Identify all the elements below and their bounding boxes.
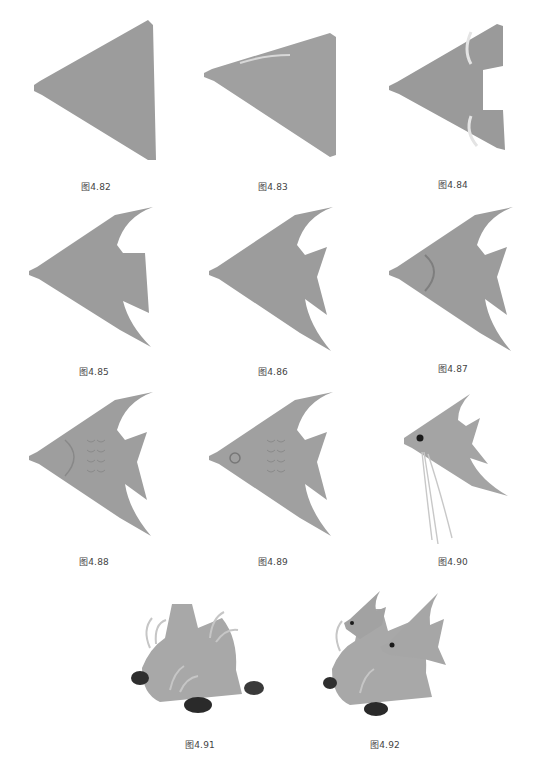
dorsal-groove-image bbox=[200, 25, 350, 165]
fins-outlined-image bbox=[25, 205, 165, 350]
figure-caption: 图4.92 bbox=[345, 738, 425, 751]
scales-carved-image bbox=[25, 390, 165, 540]
triangle-blank-image bbox=[28, 15, 168, 165]
figure-4-88 bbox=[25, 390, 165, 540]
figure-4-91 bbox=[130, 598, 270, 718]
figure-caption: 图4.91 bbox=[160, 738, 240, 751]
figure-4-83 bbox=[200, 25, 350, 165]
eye-carved-image bbox=[205, 390, 345, 540]
figure-caption: 图4.83 bbox=[233, 180, 313, 193]
figure-4-84 bbox=[385, 20, 535, 160]
assembled-scene-image bbox=[320, 585, 470, 725]
gill-carved-image bbox=[385, 205, 535, 355]
figure-caption: 图4.90 bbox=[413, 555, 493, 568]
figure-4-87 bbox=[385, 205, 535, 355]
finished-fish-image bbox=[400, 390, 530, 550]
figure-4-85 bbox=[25, 205, 165, 350]
figure-4-90 bbox=[400, 390, 530, 550]
figure-caption: 图4.82 bbox=[56, 180, 136, 193]
figure-4-92 bbox=[320, 585, 470, 725]
figure-caption: 图4.86 bbox=[233, 365, 313, 378]
figure-4-82 bbox=[28, 15, 168, 165]
figure-4-89 bbox=[205, 390, 345, 540]
figure-caption: 图4.89 bbox=[233, 555, 313, 568]
figure-4-86 bbox=[205, 205, 345, 355]
figure-caption: 图4.84 bbox=[413, 178, 493, 191]
tail-notches-image bbox=[385, 20, 535, 160]
tail-shaped-image bbox=[205, 205, 345, 355]
figure-caption: 图4.87 bbox=[413, 362, 493, 375]
figure-caption: 图4.88 bbox=[54, 555, 134, 568]
coral-rock-image bbox=[130, 598, 270, 718]
figure-caption: 图4.85 bbox=[54, 365, 134, 378]
